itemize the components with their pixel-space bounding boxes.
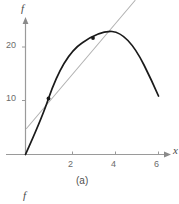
- x-axis-label: x: [173, 145, 178, 156]
- secant-line: [27, 1, 136, 129]
- y-axis-arrow-icon: [23, 17, 29, 24]
- point-marker-2: [91, 36, 95, 40]
- function-curve: [26, 31, 159, 154]
- y-axis: [22, 17, 28, 155]
- figure-panel-a: [0, 0, 179, 204]
- x-tick-label-2: 2: [68, 160, 73, 169]
- x-tick-label-4: 4: [111, 160, 116, 169]
- y-tick-label-20: 20: [6, 41, 16, 50]
- x-tick-label-6: 6: [154, 160, 159, 169]
- next-figure-y-axis-label: f: [23, 190, 26, 201]
- y-axis-label: f: [21, 3, 24, 14]
- x-axis: [6, 152, 171, 158]
- y-tick-label-10: 10: [6, 94, 16, 103]
- point-marker-1: [47, 97, 51, 101]
- x-axis-arrow-icon: [164, 152, 171, 158]
- figure-caption: (a): [76, 176, 88, 186]
